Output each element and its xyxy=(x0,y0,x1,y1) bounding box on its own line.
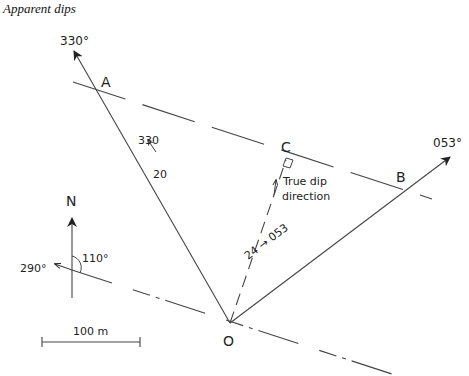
label-point-b: B xyxy=(396,169,406,185)
label-angle-110: 110° xyxy=(82,252,109,265)
strike-line-lower xyxy=(72,270,395,375)
label-dip-a-azimuth: 330 xyxy=(138,134,159,147)
label-scale: 100 m xyxy=(73,325,108,338)
label-true-dip-1: True dip xyxy=(282,175,327,188)
bearing-290-arrow xyxy=(55,264,72,270)
scale-bar xyxy=(42,337,140,347)
apparent-dips-diagram: 330° A 330 20 C True dip direction 053° … xyxy=(0,0,469,376)
label-dip-b: 24 → 053 xyxy=(242,221,291,262)
label-true-dip-2: direction xyxy=(282,190,330,203)
label-point-c: C xyxy=(281,139,291,155)
label-point-a: A xyxy=(101,74,111,90)
label-bearing-053: 053° xyxy=(433,136,462,150)
strike-line-upper xyxy=(73,82,432,199)
label-north: N xyxy=(66,193,76,209)
label-bearing-330: 330° xyxy=(60,34,89,48)
label-point-o: O xyxy=(223,333,234,349)
label-dip-a-angle: 20 xyxy=(153,168,167,181)
label-bearing-290: 290° xyxy=(20,262,47,275)
line-oa-330 xyxy=(74,51,230,323)
right-angle-marker xyxy=(283,158,293,168)
